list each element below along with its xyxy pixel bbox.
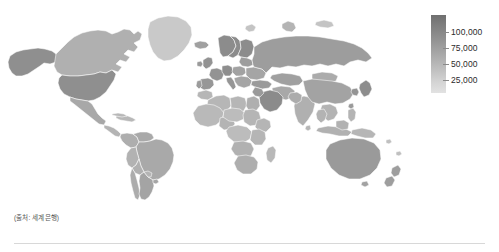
region-central-africa: [226, 125, 252, 143]
region-greenland: [148, 16, 192, 61]
region-east-africa: [250, 129, 266, 145]
map-legend: 100,000 75,000 50,000 25,000: [431, 15, 497, 97]
region-turkey: [251, 80, 272, 89]
world-map-svg: [0, 0, 420, 210]
legend-tick-mark-4: [443, 80, 449, 81]
region-indochina: [316, 109, 327, 123]
source-caption: (출처: 세계은행): [14, 214, 59, 222]
region-arctic-islands: [315, 20, 334, 28]
region-philippines: [348, 108, 356, 122]
legend-tick-mark-1: [443, 32, 449, 33]
region-canada: [54, 29, 142, 76]
region-poland: [232, 66, 246, 76]
region-mexico: [70, 97, 106, 125]
figure-canvas: 100,000 75,000 50,000 25,000 (출처: 세계은행): [0, 0, 499, 252]
region-uruguay: [153, 179, 159, 184]
region-svalbard: [245, 24, 256, 32]
bottom-divider: [14, 243, 485, 244]
region-russia: [252, 36, 372, 73]
region-ireland: [197, 61, 203, 67]
region-new-zealand-south: [384, 176, 395, 187]
region-sri-lanka: [305, 125, 311, 131]
region-pacific-islands: [386, 139, 392, 144]
legend-label-75000: 75,000: [451, 44, 478, 53]
legend-tick-mark-3: [443, 64, 449, 65]
region-central-america: [104, 125, 121, 137]
legend-label-25000: 25,000: [451, 76, 478, 85]
region-kazakhstan: [270, 73, 303, 86]
region-baltic: [239, 57, 253, 67]
region-papua-new-guinea: [351, 128, 376, 138]
legend-gradient-fill: [431, 15, 446, 93]
region-new-zealand: [391, 165, 401, 177]
region-madagascar: [266, 146, 276, 163]
region-southern-africa: [234, 155, 258, 174]
region-china: [303, 79, 354, 104]
region-tasmania: [361, 181, 369, 187]
region-alaska: [8, 48, 58, 76]
legend-tick-mark-2: [443, 48, 449, 49]
region-novaya-zemlya: [282, 21, 296, 32]
legend-color-bar: [431, 15, 446, 93]
region-japan: [359, 80, 372, 97]
region-fiji: [396, 151, 402, 156]
region-germany: [222, 65, 233, 76]
region-australia: [326, 138, 381, 179]
legend-label-100000: 100,000: [451, 28, 482, 37]
region-united-kingdom: [203, 57, 213, 69]
world-choropleth-map: [0, 0, 420, 210]
region-cuba: [112, 113, 127, 117]
legend-label-50000: 50,000: [451, 60, 478, 69]
region-iceland: [194, 41, 209, 49]
